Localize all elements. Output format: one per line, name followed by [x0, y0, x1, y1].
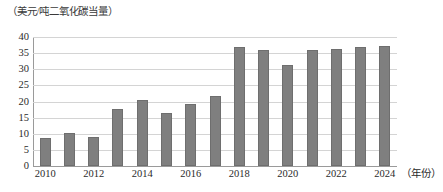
bar: [258, 50, 269, 166]
y-tick-label: 5: [3, 145, 29, 156]
bar: [112, 109, 123, 166]
x-tick-label: 2012: [83, 168, 104, 180]
y-tick-label: 30: [3, 64, 29, 75]
y-tick-label: 35: [3, 48, 29, 59]
bar-chart: （美元/吨二氧化碳当量） 4035302520151050 2010201220…: [0, 0, 443, 192]
x-tick-label: 2010: [35, 168, 56, 180]
y-tick-label: 0: [3, 161, 29, 172]
bar: [355, 47, 366, 166]
x-tick-label: 2016: [180, 168, 201, 180]
y-tick-label: 15: [3, 113, 29, 124]
bar: [282, 65, 293, 166]
plot-area: [33, 37, 397, 166]
y-tick-label: 20: [3, 97, 29, 108]
bar: [64, 133, 75, 166]
y-tick-label: 25: [3, 80, 29, 91]
bar: [40, 138, 51, 166]
x-tick-label: 2024: [374, 168, 395, 180]
bar: [88, 137, 99, 166]
bar: [137, 100, 148, 166]
x-tick-label: 2014: [132, 168, 153, 180]
bar: [210, 96, 221, 166]
y-axis-unit-caption: （美元/吨二氧化碳当量）: [7, 6, 118, 18]
y-tick-label: 40: [3, 32, 29, 43]
x-axis-tick-labels: 20102012201420162018202020222024: [33, 168, 397, 188]
bar: [379, 46, 390, 166]
bar: [185, 104, 196, 166]
bars-layer: [33, 37, 397, 166]
x-tick-label: 2022: [326, 168, 347, 180]
bar: [161, 113, 172, 166]
bar: [234, 47, 245, 166]
y-tick-label: 10: [3, 129, 29, 140]
gridline: [33, 166, 397, 167]
x-tick-label: 2020: [277, 168, 298, 180]
x-tick-label: 2018: [229, 168, 250, 180]
x-axis-unit-caption: （年份）: [401, 168, 441, 180]
bar: [331, 49, 342, 166]
y-axis-tick-labels: 4035302520151050: [0, 37, 29, 166]
bar: [307, 50, 318, 166]
